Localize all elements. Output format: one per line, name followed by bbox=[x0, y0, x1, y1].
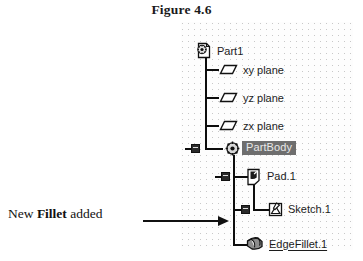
tree-stub-xy-plane bbox=[205, 69, 219, 71]
pad-icon bbox=[245, 167, 263, 186]
plane-icon bbox=[219, 91, 239, 105]
expander-sketch[interactable] bbox=[241, 205, 250, 214]
expander-wing-partbody bbox=[185, 148, 191, 150]
tree-trunk-root bbox=[205, 50, 207, 149]
tree-node-zx-plane[interactable]: zx plane bbox=[219, 117, 284, 135]
tree-node-label-zx-plane: zx plane bbox=[239, 121, 284, 132]
tree-node-label-part1: Part1 bbox=[213, 46, 243, 57]
tree-node-sketch1[interactable]: Sketch.1 bbox=[267, 200, 331, 218]
arrow-right-icon bbox=[218, 216, 229, 226]
tree-node-label-sketch1: Sketch.1 bbox=[284, 204, 331, 215]
tree-stub-partbody bbox=[205, 148, 223, 150]
annotation-prefix: New bbox=[8, 206, 37, 221]
expander-pad[interactable] bbox=[221, 172, 230, 181]
tree-node-partbody[interactable]: PartBody bbox=[223, 139, 296, 157]
sketch-icon bbox=[267, 201, 284, 218]
tree-node-label-yz-plane: yz plane bbox=[239, 93, 284, 104]
annotation-emphasis: Fillet bbox=[37, 206, 67, 221]
edge-fillet-icon bbox=[245, 235, 265, 253]
specification-tree: Part1 xy plane yz plane bbox=[181, 22, 353, 250]
figure-caption: Figure 4.6 bbox=[0, 2, 363, 18]
annotation-suffix: added bbox=[67, 206, 103, 221]
tree-node-xy-plane[interactable]: xy plane bbox=[219, 61, 284, 79]
tree-node-label-xy-plane: xy plane bbox=[239, 65, 284, 76]
expander-wing-pad bbox=[215, 176, 221, 178]
tree-node-pad1[interactable]: Pad.1 bbox=[245, 167, 296, 185]
tree-node-label-pad1: Pad.1 bbox=[263, 171, 296, 182]
tree-stub-zx-plane bbox=[205, 125, 219, 127]
expander-partbody[interactable] bbox=[191, 144, 200, 153]
expander-wing-sketch bbox=[235, 209, 241, 211]
tree-node-label-edgefillet1: EdgeFillet.1 bbox=[265, 239, 327, 250]
tree-node-part1[interactable]: Part1 bbox=[195, 42, 243, 60]
tree-node-yz-plane[interactable]: yz plane bbox=[219, 89, 284, 107]
tree-trunk-partbody bbox=[233, 155, 235, 245]
figure-page: Figure 4.6 bbox=[0, 0, 363, 261]
part-document-icon bbox=[195, 42, 213, 60]
body-icon bbox=[223, 139, 242, 158]
leader-line bbox=[143, 220, 221, 222]
plane-icon bbox=[219, 63, 239, 77]
plane-icon bbox=[219, 119, 239, 133]
specification-tree-panel: Part1 xy plane yz plane bbox=[181, 22, 353, 250]
tree-stub-yz-plane bbox=[205, 97, 219, 99]
tree-node-label-partbody: PartBody bbox=[242, 141, 296, 155]
tree-trunk-pad bbox=[253, 182, 255, 210]
tree-node-edgefillet1[interactable]: EdgeFillet.1 bbox=[245, 235, 327, 253]
annotation-text: New Fillet added bbox=[8, 206, 102, 222]
